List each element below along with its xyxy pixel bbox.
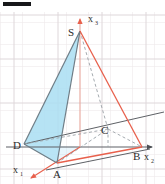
axis-label-x3: x [88, 13, 93, 24]
axis-label-x1: x [13, 164, 18, 175]
axis-sub-x1: 1 [20, 171, 23, 177]
vertex-label-D: D [13, 139, 21, 151]
vertex-label-B: B [133, 150, 140, 162]
geometry-diagram: S A B C D x 3 x 2 x 1 [0, 0, 165, 184]
figure-container: S A B C D x 3 x 2 x 1 [0, 0, 165, 184]
vertex-label-C: C [101, 124, 108, 136]
vertex-label-S: S [68, 26, 74, 38]
axis-sub-x2: 2 [151, 158, 154, 164]
axis-sub-x3: 3 [95, 20, 98, 26]
axis-label-x2: x [144, 151, 149, 162]
vertex-label-A: A [53, 168, 61, 180]
